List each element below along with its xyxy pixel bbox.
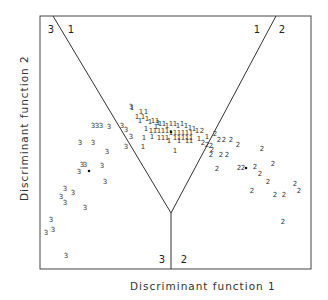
point-group-3: 3 [107,123,111,131]
centroid-group-2 [245,167,248,170]
territorial-map-chart: 311232 111111111111111111111111111111111… [0,0,328,300]
point-group-3: 3 [63,199,67,207]
x-axis-label: Discriminant function 1 [130,280,276,292]
point-group-3: 3 [129,133,133,141]
point-group-1: 1 [177,137,181,145]
point-group-1: 1 [173,147,177,155]
point-group-3: 3 [77,168,81,176]
region-label: 1 [68,24,74,35]
point-group-2: 2 [241,164,245,172]
point-group-3: 3 [91,139,95,147]
point-group-2: 2 [209,151,213,159]
point-group-3: 3 [124,126,128,134]
boundary-1-2 [171,16,276,213]
point-group-3: 3 [51,226,55,234]
point-group-3: 3 [100,162,104,170]
point-group-2: 2 [222,136,226,144]
point-group-1: 1 [195,127,199,135]
point-group-3: 3 [44,229,48,237]
point-group-2: 2 [258,170,262,178]
point-group-1: 1 [144,125,148,133]
point-group-1: 1 [189,137,193,145]
point-group-2: 2 [236,141,240,149]
region-label: 2 [279,24,285,35]
point-group-3: 3 [99,122,103,130]
point-group-3: 3 [105,148,109,156]
point-group-3: 3 [124,143,128,151]
point-group-3: 3 [71,189,75,197]
point-group-1: 1 [138,117,142,125]
point-group-1: 1 [205,133,209,141]
point-group-3: 3 [83,204,87,212]
point-group-2: 2 [229,136,233,144]
point-group-3: 3 [83,161,87,169]
point-group-2: 2 [225,151,229,159]
point-group-2: 2 [217,136,221,144]
region-label: 2 [181,254,187,265]
point-group-3: 3 [63,185,67,193]
point-group-2: 2 [271,160,275,168]
point-group-2: 2 [200,127,204,135]
data-points: 1111111111111111111111111111111111111111… [44,103,301,260]
centroid-group-3 [88,170,91,173]
centroid-group-1 [170,131,173,134]
point-group-3: 3 [64,252,68,260]
y-axis-label: Discriminant function 2 [18,55,30,201]
point-group-2: 2 [253,163,257,171]
point-group-2: 2 [282,191,286,199]
point-group-2: 2 [297,187,301,195]
point-group-3: 3 [103,178,107,186]
region-label: 1 [254,24,260,35]
boundary-3-1 [53,16,171,213]
point-group-2: 2 [266,178,270,186]
point-group-1: 1 [167,137,171,145]
point-group-2: 2 [250,187,254,195]
point-group-1: 1 [141,143,145,151]
territory-boundaries [53,16,276,269]
point-group-2: 2 [215,165,219,173]
point-group-2: 2 [273,191,277,199]
point-group-1: 1 [142,134,146,142]
region-label: 3 [159,254,165,265]
point-group-3: 3 [129,103,133,111]
point-group-2: 2 [281,218,285,226]
point-group-2: 2 [219,151,223,159]
point-group-2: 2 [260,145,264,153]
point-group-1: 1 [150,133,154,141]
point-group-3: 3 [78,139,82,147]
region-label: 3 [48,24,54,35]
point-group-3: 3 [49,216,53,224]
